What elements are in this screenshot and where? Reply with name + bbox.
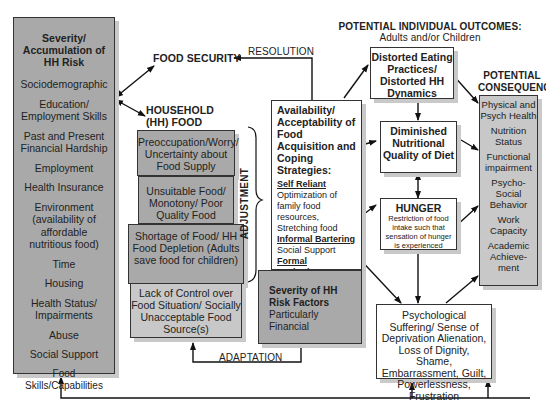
- risk-item: Time: [14, 258, 114, 271]
- consequence-item: Work Capacity: [480, 214, 537, 236]
- hunger-description: Restriction of food intake such that sen…: [381, 214, 456, 250]
- consequence-item: Functional impairment: [480, 151, 537, 173]
- severity-subtitle: Particularly Financial: [269, 309, 361, 333]
- hh-risk-title: Severity/ Accumulation of HH Risk: [14, 32, 114, 68]
- consequence-item: Physical and Psych Health: [480, 99, 537, 121]
- coping-heading-bartering: Informal Bartering: [277, 234, 357, 245]
- risk-item: Education/ Employment Skills: [14, 98, 114, 123]
- outcomes-header-subtitle: Adults and/or Children: [330, 32, 530, 43]
- risk-item: Health Insurance: [14, 181, 114, 194]
- risk-item: Sociodemographic: [14, 78, 114, 91]
- distorted-eating-box: Distorted Eating Practices/ Distorted HH…: [370, 47, 454, 99]
- risk-item: Housing: [14, 277, 114, 290]
- insecurity-level-4: Lack of Control over Food Situation/ Soc…: [130, 283, 242, 338]
- coping-title: Availability/ Acceptability of Food Acqu…: [277, 104, 357, 176]
- risk-item: Health Status/ Impairments: [14, 297, 114, 322]
- risk-item: Employment: [14, 162, 114, 175]
- hunger-box: HUNGER Restriction of food intake such t…: [380, 198, 457, 250]
- insecurity-level-3: Shortage of Food/ HH Food Depletion (Adu…: [128, 224, 244, 284]
- insecurity-level-1: Preoccupation/Worry/ Uncertainty about F…: [137, 130, 235, 176]
- risk-item: Social Support: [14, 348, 114, 361]
- hh-risk-box: Severity/ Accumulation of HH Risk Sociod…: [13, 17, 115, 374]
- psychological-suffering-box: Psychological Suffering/ Sense of Depriv…: [376, 304, 492, 379]
- risk-item: Environment (availability of affordable …: [14, 201, 114, 251]
- consequences-title: POTENTIAL CONSEQUENCES: [478, 70, 546, 94]
- risk-item: Food Skills/Capabilities: [14, 368, 114, 393]
- adaptation-label: ADAPTATION: [219, 352, 282, 363]
- resolution-label: RESOLUTION: [248, 46, 314, 57]
- consequence-item: Psycho-Social Behavior: [480, 177, 537, 210]
- adjustment-label: ADJUSTMENT: [239, 164, 250, 244]
- diminished-nutritional-quality-box: Diminished Nutritional Quality of Diet: [380, 121, 457, 173]
- insecurity-level-2: Unsuitable Food/ Monotony/ Poor Quality …: [138, 176, 234, 224]
- risk-item: Past and Present Financial Hardship: [14, 130, 114, 155]
- severity-risk-factors-box: Severity of HH Risk Factors Particularly…: [258, 270, 362, 344]
- consequence-item: Nutrition Status: [480, 125, 537, 147]
- coping-text-self-reliant: Optimization of family food resources, S…: [277, 190, 357, 234]
- consequences-box: Physical and Psych Health Nutrition Stat…: [479, 95, 538, 286]
- coping-strategies-box: Availability/ Acceptability of Food Acqu…: [271, 100, 362, 270]
- coping-text-bartering: Social Support: [277, 245, 357, 256]
- consequence-item: Academic Achieve-ment: [480, 240, 537, 273]
- severity-title: Severity of HH Risk Factors: [269, 285, 361, 309]
- food-security-label: FOOD SECURITY: [153, 52, 241, 64]
- risk-item: Abuse: [14, 329, 114, 342]
- hunger-title: HUNGER: [381, 202, 456, 214]
- coping-heading-self-reliant: Self Reliant: [277, 179, 357, 190]
- outcomes-header-title: POTENTIAL INDIVIDUAL OUTCOMES:: [330, 21, 530, 32]
